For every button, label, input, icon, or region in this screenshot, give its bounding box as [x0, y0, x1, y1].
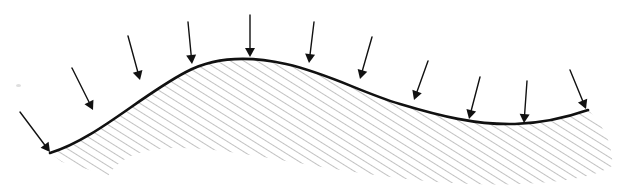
- arrow-head: [245, 48, 255, 57]
- arrow-shaft: [570, 70, 583, 102]
- load-arrow: [305, 22, 315, 63]
- load-arrow: [520, 81, 530, 123]
- arrow-head: [133, 70, 143, 80]
- arrow-shaft: [310, 22, 314, 56]
- arrow-shaft: [20, 112, 46, 146]
- load-arrow: [358, 37, 372, 79]
- load-arrow: [186, 22, 196, 64]
- arrow-head: [358, 69, 368, 79]
- arrow-head: [41, 142, 50, 152]
- arrow-shaft: [362, 37, 372, 72]
- arrow-shaft: [471, 77, 480, 112]
- arrow-shaft: [128, 36, 138, 73]
- arrow-head: [520, 114, 530, 123]
- load-arrow: [466, 77, 480, 119]
- arrow-shaft: [188, 22, 191, 57]
- load-arrow: [412, 61, 428, 100]
- arrow-head: [186, 55, 196, 64]
- figure-canvas: [0, 0, 631, 193]
- load-arrow: [20, 112, 50, 152]
- arrow-head: [305, 53, 315, 63]
- arrow-shaft: [417, 61, 428, 93]
- scan-speck-artifact: [16, 84, 21, 87]
- arrow-shaft: [72, 68, 90, 103]
- load-arrow: [72, 68, 93, 110]
- load-arrow: [128, 36, 142, 80]
- load-arrow: [570, 70, 587, 109]
- arrow-head: [466, 109, 476, 119]
- distributed-load-diagram: [0, 0, 631, 193]
- load-arrow: [245, 15, 255, 57]
- arrow-shaft: [525, 81, 527, 116]
